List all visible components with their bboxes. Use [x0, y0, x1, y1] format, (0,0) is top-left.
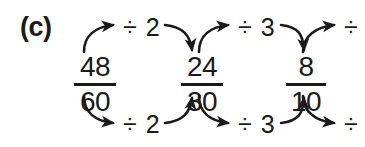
operation-label-top-3: ÷ — [344, 15, 359, 40]
fraction-numerator: 8 — [286, 53, 326, 82]
fraction-48-60: 48 60 — [74, 53, 116, 116]
fraction-denominator: 60 — [74, 87, 116, 116]
fraction-numerator: 48 — [74, 53, 116, 82]
figure-canvas: (c) 48 60 24 30 8 10 ÷ 2 ÷ 3 ÷ ÷ 2 ÷ 3 ÷ — [0, 0, 365, 147]
operation-label-top-1: ÷ 2 — [123, 15, 161, 40]
operation-label-bottom-2: ÷ 3 — [238, 112, 276, 137]
arrow-top-up-1 — [84, 25, 113, 52]
fraction-24-30: 24 30 — [181, 53, 223, 116]
arrow-top-down-2 — [281, 25, 304, 50]
arrow-top-up-2 — [199, 25, 228, 52]
arrow-top-up-3 — [303, 25, 334, 52]
fraction-denominator: 30 — [181, 87, 223, 116]
fraction-denominator: 10 — [286, 87, 326, 116]
operation-label-bottom-1: ÷ 2 — [123, 112, 161, 137]
operation-label-bottom-3: ÷ — [344, 112, 359, 137]
operation-label-top-2: ÷ 3 — [238, 15, 276, 40]
fraction-8-10: 8 10 — [286, 53, 326, 116]
part-label: (c) — [20, 14, 52, 41]
fraction-numerator: 24 — [181, 53, 223, 82]
arrow-top-down-1 — [165, 25, 192, 50]
